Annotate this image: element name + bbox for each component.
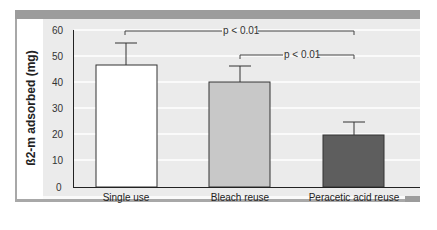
x-label-bleach-reuse: Bleach reuse [211,192,270,203]
y-tick-20: 20 [52,129,64,140]
y-tick-10: 10 [52,155,64,166]
bar-bleach-reuse [209,82,270,187]
p-value-label-1: p < 0.01 [223,25,260,36]
bar-chart: 60 50 40 30 20 10 0 p < 0.01 p < 0.01 Si… [0,0,437,230]
y-tick-50: 50 [52,51,64,62]
bar-peracetic-acid-reuse [323,135,384,187]
x-label-peracetic-acid-reuse: Peracetic acid reuse [309,192,400,203]
y-tick-30: 30 [52,103,64,114]
y-tick-0: 0 [56,182,62,193]
y-tick-40: 40 [52,77,64,88]
y-tick-60: 60 [52,25,64,36]
x-label-single-use: Single use [103,192,150,203]
p-value-label-2: p < 0.01 [284,49,321,60]
bar-single-use [96,65,157,187]
